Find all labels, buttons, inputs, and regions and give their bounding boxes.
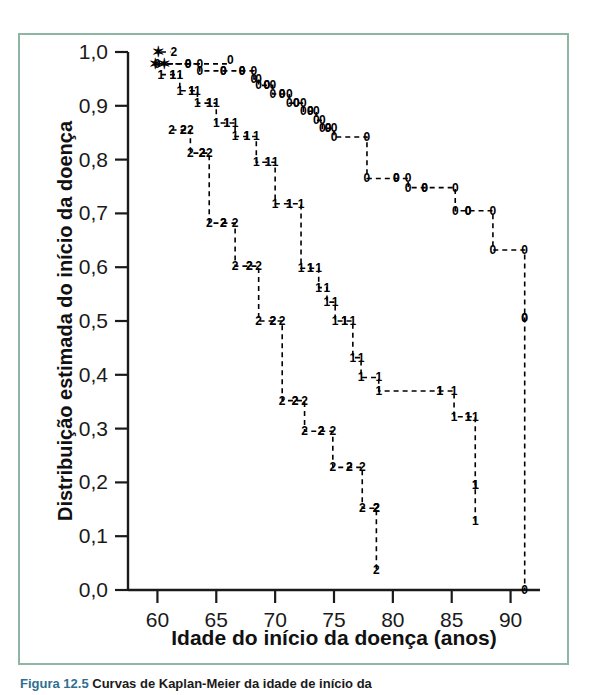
caption-text: Curvas de Kaplan-Meier da idade de iníci… <box>92 676 372 691</box>
figure-frame <box>18 33 569 665</box>
caption-label: Figura 12.5 <box>20 676 89 691</box>
figure-caption: Figura 12.5 Curvas de Kaplan-Meier da id… <box>20 676 580 691</box>
